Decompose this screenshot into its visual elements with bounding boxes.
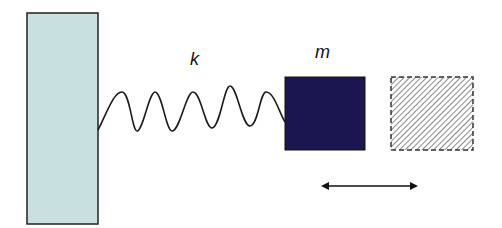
spring: [98, 86, 285, 131]
mass-block: [285, 77, 365, 150]
ghost-mass-block: [391, 77, 473, 150]
mass-label: m: [315, 43, 330, 61]
spring-constant-label: k: [190, 50, 199, 68]
diagram-svg: [0, 0, 502, 228]
wall: [27, 13, 98, 224]
spring-mass-diagram: k m: [0, 0, 502, 228]
